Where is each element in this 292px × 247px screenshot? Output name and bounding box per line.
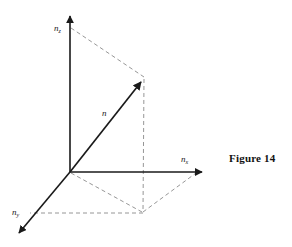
coordinate-axes	[19, 16, 202, 233]
axis-label-x-sub: x	[185, 159, 189, 165]
dashed-line-z-axis-to-tip	[71, 28, 144, 77]
axis-label-y: ny	[12, 207, 20, 218]
axis-label-z-sub: z	[58, 28, 62, 34]
normal-vector	[70, 82, 141, 172]
axis-label-y-sub: y	[16, 212, 20, 218]
vector-label-n: n	[102, 108, 107, 118]
dashed-line-tip-to-xy-plane	[143, 79, 144, 212]
axis-label-x: nx	[181, 154, 189, 165]
axis-y-line	[19, 172, 70, 233]
vector-n-line	[70, 82, 141, 172]
dashed-line-origin-to-xy-point	[71, 173, 142, 212]
figure-container: nz nx ny n Figure 14	[0, 0, 292, 247]
dashed-projection-lines	[30, 28, 196, 213]
vector-diagram: nz nx ny n	[0, 0, 292, 247]
dashed-line-xy-point-to-x-axis	[143, 173, 196, 212]
axis-labels: nz nx ny n	[12, 23, 189, 218]
axis-label-z: nz	[54, 23, 62, 34]
figure-caption: Figure 14	[229, 152, 276, 164]
